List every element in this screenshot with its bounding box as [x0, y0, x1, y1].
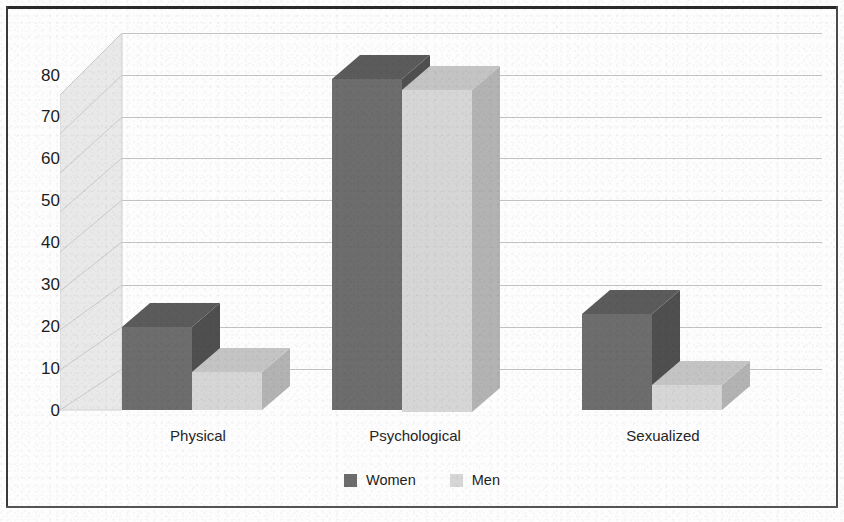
- y-tick-40: 40: [16, 234, 60, 251]
- y-axis-ticks: 80 70 60 50 40 30 20 10 0: [14, 0, 60, 522]
- figure-border-top: [6, 6, 838, 9]
- category-label-physical: Physical: [118, 428, 278, 443]
- legend-swatch-men-icon: [450, 474, 463, 487]
- chart-figure: 80 70 60 50 40 30 20 10 0: [0, 0, 844, 522]
- y-tick-80: 80: [16, 67, 60, 84]
- legend-label-women: Women: [366, 473, 416, 488]
- chart-plot-area: 80 70 60 50 40 30 20 10 0: [0, 0, 844, 522]
- gridline-90: [122, 33, 822, 34]
- y-tick-20: 20: [16, 318, 60, 335]
- category-label-psychological: Psychological: [320, 428, 510, 443]
- chart-legend: Women Men: [0, 473, 844, 488]
- legend-item-men: Men: [450, 473, 500, 488]
- category-label-sexualized: Sexualized: [578, 428, 748, 443]
- y-tick-60: 60: [16, 150, 60, 167]
- y-tick-10: 10: [16, 360, 60, 377]
- y-tick-0: 0: [16, 402, 60, 419]
- y-tick-50: 50: [16, 192, 60, 209]
- legend-item-women: Women: [344, 473, 416, 488]
- legend-label-men: Men: [472, 473, 500, 488]
- y-tick-30: 30: [16, 276, 60, 293]
- figure-border-bottom: [6, 506, 838, 508]
- figure-border-left: [6, 6, 8, 508]
- bar-men-physical: [192, 343, 317, 415]
- legend-swatch-women-icon: [344, 474, 357, 487]
- figure-border-right: [836, 6, 838, 508]
- bar-men-sexualized: [652, 357, 777, 415]
- y-tick-70: 70: [16, 108, 60, 125]
- bar-men-psychological: [402, 62, 527, 417]
